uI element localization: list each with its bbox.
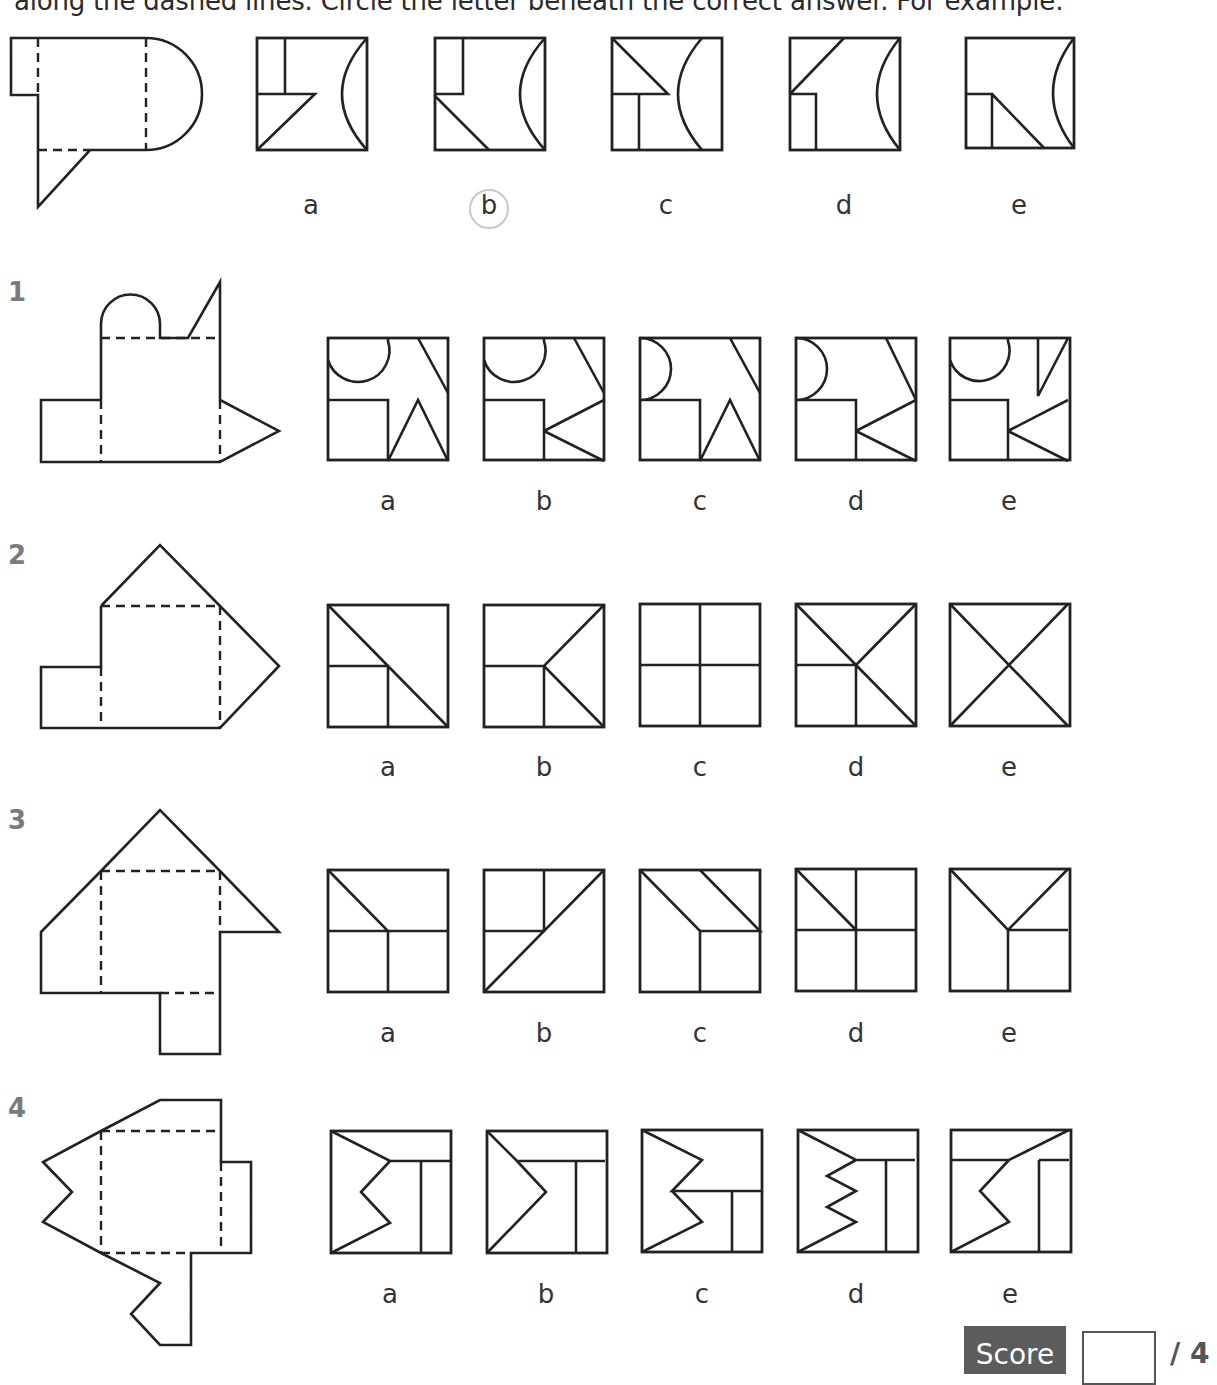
question-2-option-e-label[interactable]: e [989,752,1029,782]
example-option-a-lines [257,38,367,150]
question-1-option-a-lines [328,338,448,461]
question-4-option-e-frame [951,1130,1071,1252]
question-1-option-b-lines [484,338,604,461]
question-2-option-d-label[interactable]: d [836,752,876,782]
example-option-d-label[interactable]: d [824,190,864,220]
example-option-c-lines [612,38,702,150]
question-2-option-c-label[interactable]: c [680,752,720,782]
question-4-option-c-lines [642,1130,762,1252]
question-number: 2 [8,540,26,570]
question-2-option-e-lines [950,604,1068,726]
example-net-fold-lines [38,38,146,150]
example-option-a-label[interactable]: a [291,190,331,220]
question-1-option-b-label[interactable]: b [524,486,564,516]
question-3-option-d-label[interactable]: d [836,1018,876,1048]
score-max: / 4 [1170,1337,1209,1370]
question-number: 4 [8,1093,26,1123]
question-1-option-a-label[interactable]: a [368,486,408,516]
question-4-option-d-label[interactable]: d [836,1279,876,1309]
question-2-option-b-label[interactable]: b [524,752,564,782]
example-option-b-lines [435,38,545,150]
question-3-option-b-label[interactable]: b [524,1018,564,1048]
question-4-option-b-lines [487,1131,605,1253]
question-2-net-fold-lines [101,606,220,728]
question-3-option-e-lines [950,869,1068,991]
question-3-option-c-lines [640,870,760,992]
example-option-e-lines [966,38,1074,148]
example-net-outline [11,38,202,207]
question-1-option-e-label[interactable]: e [989,486,1029,516]
question-2-option-a-lines [328,605,448,727]
example-option-c-label[interactable]: c [646,190,686,220]
score-input-box[interactable] [1082,1331,1156,1385]
question-4-option-a-label[interactable]: a [370,1279,410,1309]
question-1-option-e-lines [950,338,1068,461]
question-4-option-b-label[interactable]: b [526,1279,566,1309]
question-4-option-d-lines [798,1130,915,1252]
question-1-option-c-lines [640,338,760,461]
question-1-option-d-lines [796,338,916,461]
question-3-option-a-label[interactable]: a [368,1018,408,1048]
question-1-net-outline [41,282,279,462]
question-4-option-e-label[interactable]: e [990,1279,1030,1309]
question-4-option-c-label[interactable]: c [682,1279,722,1309]
question-3-net-outline [41,810,279,1054]
question-1-net-fold-lines [101,338,220,462]
question-4-option-e-lines [951,1130,1069,1252]
question-3-option-b-lines [484,870,604,992]
question-2-net-outline [41,545,279,728]
question-4-net-fold-lines [101,1131,221,1253]
question-3-option-a-lines [328,870,448,992]
example-option-e-label[interactable]: e [999,190,1039,220]
question-3-option-e-label[interactable]: e [989,1018,1029,1048]
score-label: Score [964,1326,1066,1374]
question-3-option-c-label[interactable]: c [680,1018,720,1048]
question-2-option-d-lines [796,604,916,726]
question-number: 3 [8,805,26,835]
question-4-option-a-lines [331,1131,451,1253]
selected-answer-circle [469,189,509,229]
question-2-option-a-label[interactable]: a [368,752,408,782]
question-1-option-c-label[interactable]: c [680,486,720,516]
question-2-option-b-lines [484,605,604,727]
question-2-option-c-lines [640,604,760,726]
question-3-net-fold-lines [101,871,220,993]
question-4-option-a-frame [331,1131,451,1253]
question-number: 1 [8,277,26,307]
question-3-option-d-lines [796,869,916,991]
example-option-d-lines [790,38,900,150]
question-1-option-d-label[interactable]: d [836,486,876,516]
